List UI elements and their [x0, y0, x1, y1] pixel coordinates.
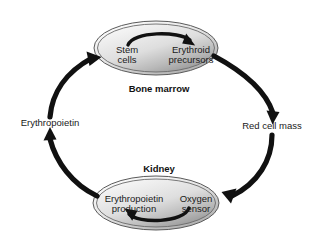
red-cell-mass-to-kidney-arc — [232, 135, 272, 196]
bone-marrow-label: Bone marrow — [129, 83, 190, 94]
right-loop-arc: Red cell mass — [214, 56, 302, 204]
node-erythroid-precursors-line2: precursors — [169, 54, 214, 65]
node-oxygen-sensor-line2: sensor — [182, 203, 211, 214]
bone-marrow-compartment: Stem cells Erythroid precursors Bone mar… — [94, 21, 218, 94]
precursor-to-red-cell-mass-arc — [214, 56, 273, 113]
node-erythropoietin-production-line2: production — [112, 203, 156, 214]
kidney-compartment: Kidney Erythropoietin production Oxygen … — [93, 163, 219, 230]
kidney-label: Kidney — [143, 163, 175, 174]
edge-label-red-cell-mass: Red cell mass — [242, 120, 302, 131]
node-stem-cells-line2: cells — [117, 54, 136, 65]
kidney-to-erythropoietin-arc — [50, 139, 97, 196]
erythropoietin-to-marrow-arc — [50, 58, 92, 117]
left-loop-arc: Erythropoietin — [21, 52, 102, 197]
feedback-loop-diagram: Stem cells Erythroid precursors Bone mar… — [0, 0, 316, 252]
erythropoietin-arrowhead-up — [44, 127, 57, 141]
diagram-canvas: Stem cells Erythroid precursors Bone mar… — [0, 0, 316, 252]
